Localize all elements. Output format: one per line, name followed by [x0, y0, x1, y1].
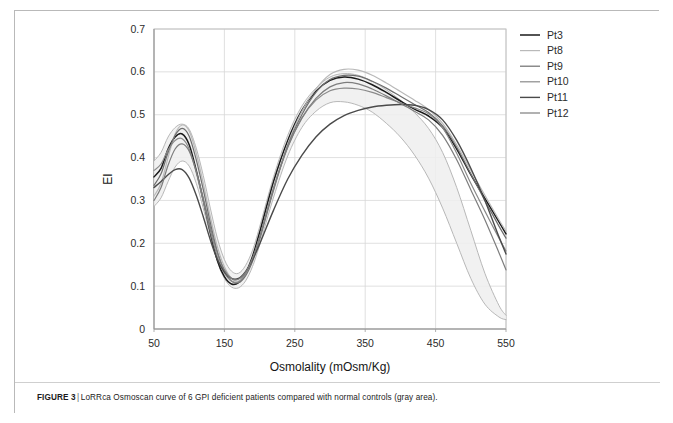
caption-body: LoRRca Osmoscan curve of 6 GPI deficient…: [81, 393, 438, 402]
x-axis-title: Osmolality (mOsm/Kg): [270, 360, 391, 374]
y-tick-label: 0.7: [130, 23, 145, 35]
osmoscan-chart: 50150250350450550 00.10.20.30.40.50.60.7…: [15, 11, 660, 383]
y-axis-title-text: EI: [101, 173, 115, 184]
x-tick-label: 450: [427, 337, 445, 349]
y-tick-label: 0.2: [130, 237, 145, 249]
figure-number: FIGURE 3: [37, 393, 76, 402]
x-tick-label: 550: [497, 337, 515, 349]
y-tick-label: 0.6: [130, 65, 145, 77]
legend-label: Pt8: [547, 44, 563, 56]
legend-label: Pt9: [547, 60, 563, 72]
x-tick-label: 250: [286, 337, 304, 349]
figure-caption: FIGURE 3|LoRRca Osmoscan curve of 6 GPI …: [15, 393, 438, 403]
figure-caption-bar: FIGURE 3|LoRRca Osmoscan curve of 6 GPI …: [15, 383, 660, 413]
legend-item-pt3[interactable]: Pt3: [520, 29, 563, 41]
x-tick-label: 50: [148, 337, 160, 349]
y-axis-title: EI: [101, 173, 115, 184]
normal-control-band-fill: [154, 74, 506, 320]
legend-item-pt12[interactable]: Pt12: [520, 107, 569, 119]
x-tick-label: 150: [216, 337, 234, 349]
legend-label: Pt3: [547, 29, 563, 41]
figure-container: 50150250350450550 00.10.20.30.40.50.60.7…: [0, 0, 673, 423]
chart-legend: Pt3Pt8Pt9Pt10Pt11Pt12: [520, 29, 569, 119]
legend-label: Pt11: [547, 91, 568, 103]
legend-item-pt10[interactable]: Pt10: [520, 75, 569, 87]
legend-label: Pt12: [547, 107, 569, 119]
legend-item-pt9[interactable]: Pt9: [520, 60, 563, 72]
x-axis-tick-labels: 50150250350450550: [148, 329, 515, 349]
y-tick-label: 0.3: [130, 194, 145, 206]
y-tick-label: 0: [139, 323, 145, 335]
y-tick-label: 0.5: [130, 108, 145, 120]
reference-band-normal-controls: [154, 74, 506, 320]
legend-label: Pt10: [547, 75, 569, 87]
legend-item-pt11[interactable]: Pt11: [520, 91, 568, 103]
y-axis-tick-labels: 00.10.20.30.40.50.60.7: [130, 23, 145, 335]
y-tick-label: 0.1: [130, 280, 145, 292]
chart-panel: 50150250350450550 00.10.20.30.40.50.60.7…: [15, 11, 660, 383]
legend-item-pt8[interactable]: Pt8: [520, 44, 563, 56]
figure-frame: 50150250350450550 00.10.20.30.40.50.60.7…: [14, 10, 659, 413]
x-tick-label: 350: [356, 337, 374, 349]
y-tick-label: 0.4: [130, 151, 145, 163]
x-axis-title-text: Osmolality (mOsm/Kg): [270, 360, 391, 374]
